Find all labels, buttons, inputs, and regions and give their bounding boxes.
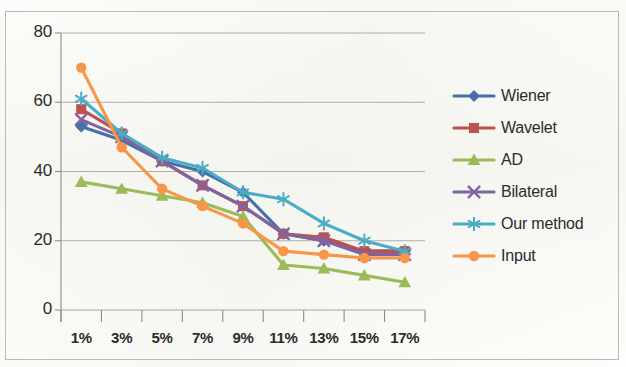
x-tick-label: 11% bbox=[261, 329, 305, 346]
legend-label: AD bbox=[501, 151, 523, 169]
legend-label: Wiener bbox=[501, 87, 550, 105]
legend-marker-circle-icon bbox=[452, 246, 496, 266]
chart-figure: 020406080 1%3%5%7%9%11%13%15%17% WienerW… bbox=[0, 0, 626, 367]
series-wavelet bbox=[76, 104, 410, 256]
legend-item-ad[interactable]: AD bbox=[452, 144, 622, 176]
series-input bbox=[76, 62, 410, 263]
x-tick-label: 9% bbox=[221, 329, 265, 346]
legend-marker-diamond-icon bbox=[452, 86, 496, 106]
y-axis-ticks bbox=[55, 33, 61, 310]
legend-label: Bilateral bbox=[501, 183, 557, 201]
legend-item-our-method[interactable]: Our method bbox=[452, 208, 622, 240]
x-tick-label: 13% bbox=[302, 329, 346, 346]
legend-item-input[interactable]: Input bbox=[452, 240, 622, 272]
y-tick-label: 40 bbox=[8, 161, 52, 181]
x-tick-label: 7% bbox=[181, 329, 225, 346]
y-tick-label: 80 bbox=[8, 22, 52, 42]
chart-legend: WienerWaveletADBilateralOur methodInput bbox=[452, 80, 622, 272]
legend-label: Our method bbox=[501, 215, 584, 233]
series-our-method bbox=[76, 93, 410, 258]
y-tick-label: 0 bbox=[8, 299, 52, 319]
y-tick-label: 60 bbox=[8, 91, 52, 111]
legend-item-bilateral[interactable]: Bilateral bbox=[452, 176, 622, 208]
legend-label: Wavelet bbox=[501, 119, 557, 137]
legend-marker-asterisk-icon bbox=[452, 214, 496, 234]
x-axis-ticks bbox=[61, 310, 425, 322]
x-tick-label: 1% bbox=[59, 329, 103, 346]
legend-marker-square-icon bbox=[452, 118, 496, 138]
legend-item-wavelet[interactable]: Wavelet bbox=[452, 112, 622, 144]
legend-marker-x-icon bbox=[452, 182, 496, 202]
x-tick-label: 3% bbox=[100, 329, 144, 346]
x-tick-label: 5% bbox=[140, 329, 184, 346]
y-tick-label: 20 bbox=[8, 230, 52, 250]
x-tick-label: 17% bbox=[383, 329, 427, 346]
legend-item-wiener[interactable]: Wiener bbox=[452, 80, 622, 112]
legend-label: Input bbox=[501, 247, 536, 265]
gridlines bbox=[61, 33, 425, 310]
data-series-group bbox=[75, 62, 411, 287]
legend-marker-triangle-icon bbox=[452, 150, 496, 170]
x-tick-label: 15% bbox=[342, 329, 386, 346]
